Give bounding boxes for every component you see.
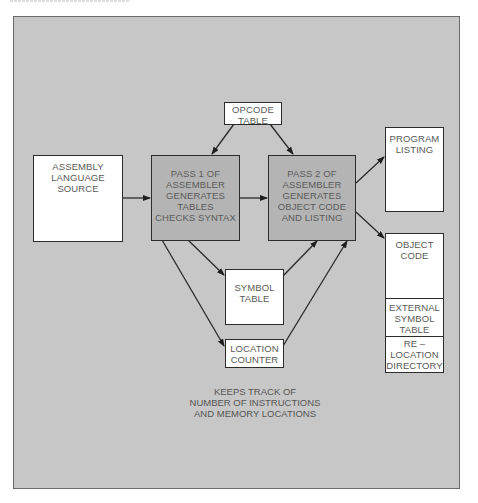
relocation-directory-node: RE – LOCATION DIRECTORY — [385, 336, 444, 373]
object-code-label-line-2: CODE — [386, 250, 443, 261]
pass2-label-line-4: OBJECT CODE — [269, 201, 355, 212]
object-code-node: OBJECT CODE — [385, 233, 444, 300]
assembly-source-label-line-2: LANGUAGE — [34, 172, 122, 183]
pass2-node: PASS 2 OF ASSEMBLER GENERATES OBJECT COD… — [268, 155, 356, 241]
opcode-table-label-line-2: TABLE — [225, 115, 281, 126]
program-listing-label-line-1: PROGRAM — [386, 133, 443, 144]
location-counter-label-line-2: COUNTER — [226, 354, 283, 365]
edge-pass2-to-object — [356, 212, 384, 238]
pass1-label-line-3: GENERATES — [152, 190, 239, 201]
edge-pass2-to-listing — [356, 157, 384, 183]
edge-symbol-to-pass2 — [283, 241, 317, 276]
opcode-table-label-line-1: OPCODE — [225, 104, 281, 115]
pass2-label-line-5: AND LISTING — [269, 212, 355, 223]
relocation-directory-label-line-1: RE – — [386, 338, 443, 349]
assembly-source-label-line-1: ASSEMBLY — [34, 161, 122, 172]
edge-pass1-to-symbol — [188, 240, 224, 275]
edge-pass1-to-location — [162, 240, 224, 346]
pass1-label-line-2: ASSEMBLER — [152, 179, 239, 190]
pass1-label-line-1: PASS 1 OF — [152, 168, 239, 179]
edge-opcode-to-pass2 — [270, 124, 293, 154]
object-code-label-line-1: OBJECT — [386, 239, 443, 250]
pass1-label-line-5: CHECKS SYNTAX — [152, 212, 239, 223]
location-counter-label-line-1: LOCATION — [226, 343, 283, 354]
opcode-table-node: OPCODE TABLE — [224, 102, 282, 125]
assembly-source-label-line-3: SOURCE — [34, 183, 122, 194]
external-symbol-table-label-line-2: SYMBOL — [386, 313, 443, 324]
edge-opcode-to-pass1 — [212, 124, 234, 154]
caption-line-1: KEEPS TRACK OF — [180, 386, 330, 397]
pass2-label-line-2: ASSEMBLER — [269, 179, 355, 190]
external-symbol-table-label-line-3: TABLE — [386, 324, 443, 335]
caption-line-2: NUMBER OF INSTRUCTIONS — [180, 397, 330, 408]
location-counter-node: LOCATION COUNTER — [225, 339, 284, 368]
program-listing-node: PROGRAM LISTING — [385, 127, 444, 212]
assembly-source-node: ASSEMBLY LANGUAGE SOURCE — [33, 155, 123, 242]
relocation-directory-label-line-2: LOCATION — [386, 349, 443, 360]
relocation-directory-label-line-3: DIRECTORY — [386, 360, 443, 371]
symbol-table-node: SYMBOL TABLE — [225, 269, 284, 325]
caption-line-3: AND MEMORY LOCATIONS — [180, 408, 330, 419]
pass2-label-line-1: PASS 2 OF — [269, 168, 355, 179]
pass1-node: PASS 1 OF ASSEMBLER GENERATES TABLES CHE… — [151, 155, 240, 241]
pass1-label-line-4: TABLES — [152, 201, 239, 212]
program-listing-label-line-2: LISTING — [386, 144, 443, 155]
edge-location-to-pass2 — [283, 241, 347, 346]
location-counter-caption: KEEPS TRACK OF NUMBER OF INSTRUCTIONS AN… — [180, 386, 330, 419]
external-symbol-table-node: EXTERNAL SYMBOL TABLE — [385, 298, 444, 338]
symbol-table-label-line-2: TABLE — [226, 293, 283, 304]
symbol-table-label-line-1: SYMBOL — [226, 282, 283, 293]
pass2-label-line-3: GENERATES — [269, 190, 355, 201]
external-symbol-table-label-line-1: EXTERNAL — [386, 302, 443, 313]
